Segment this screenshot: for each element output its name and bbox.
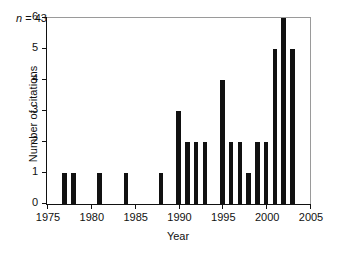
x-axis-tick: 1975 bbox=[47, 204, 48, 209]
annotation-value: = 43 bbox=[22, 12, 47, 24]
bar bbox=[176, 111, 181, 204]
x-axis-tick-label: 2005 bbox=[299, 211, 323, 223]
x-axis-tick-label: 1990 bbox=[167, 211, 191, 223]
x-axis-tick: 1990 bbox=[179, 204, 180, 209]
x-axis-tick-label: 1980 bbox=[80, 211, 104, 223]
bar bbox=[220, 80, 225, 204]
bar bbox=[273, 49, 278, 204]
y-axis-tick-label: 1 bbox=[32, 165, 38, 177]
bar bbox=[290, 49, 295, 204]
bar bbox=[185, 142, 190, 204]
bar bbox=[246, 173, 251, 204]
y-axis-tick: 5 bbox=[42, 48, 47, 49]
sample-size-annotation: n = 43 bbox=[16, 12, 47, 24]
bar bbox=[159, 173, 164, 204]
y-axis-tick-label: 5 bbox=[32, 41, 38, 53]
y-axis-tick: 4 bbox=[42, 79, 47, 80]
y-axis-tick-label: 4 bbox=[32, 72, 38, 84]
bar bbox=[238, 142, 243, 204]
x-axis-tick-label: 2000 bbox=[255, 211, 279, 223]
x-axis-tick: 1995 bbox=[222, 204, 223, 209]
bar bbox=[264, 142, 269, 204]
y-axis-tick: 3 bbox=[42, 110, 47, 111]
x-axis-tick-label: 1995 bbox=[211, 211, 235, 223]
x-axis-title: Year bbox=[43, 230, 313, 242]
bar bbox=[124, 173, 129, 204]
y-axis-tick: 1 bbox=[42, 172, 47, 173]
bar-series bbox=[47, 18, 310, 204]
bar bbox=[255, 142, 260, 204]
x-axis-tick: 2000 bbox=[266, 204, 267, 209]
x-axis-tick: 1985 bbox=[135, 204, 136, 209]
plot-area: 01234561975198019851990199520002005 bbox=[46, 17, 311, 205]
x-axis-tick: 1980 bbox=[91, 204, 92, 209]
bar bbox=[62, 173, 67, 204]
bar bbox=[281, 18, 286, 204]
citations-per-year-bar-chart: Number of citations 01234561975198019851… bbox=[0, 0, 345, 260]
x-axis-tick: 2005 bbox=[310, 204, 311, 209]
y-axis-tick: 2 bbox=[42, 141, 47, 142]
y-axis-tick-label: 0 bbox=[32, 196, 38, 208]
x-axis-tick-label: 1985 bbox=[123, 211, 147, 223]
y-axis-tick-label: 2 bbox=[32, 134, 38, 146]
bar bbox=[229, 142, 234, 204]
y-axis-tick-label: 3 bbox=[32, 103, 38, 115]
bar bbox=[71, 173, 76, 204]
bar bbox=[97, 173, 102, 204]
x-axis-tick-label: 1975 bbox=[36, 211, 60, 223]
bar bbox=[203, 142, 208, 204]
bar bbox=[194, 142, 199, 204]
